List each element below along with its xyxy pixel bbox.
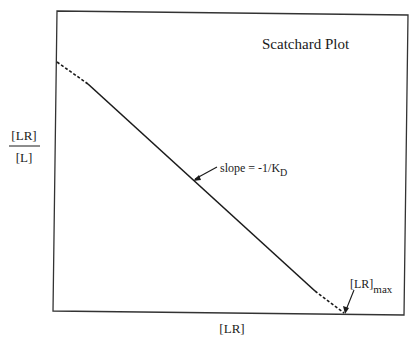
max-annotation: [LR]max xyxy=(350,277,393,295)
chart-title: Scatchard Plot xyxy=(262,36,350,52)
max-arrow-shaft xyxy=(346,290,354,310)
y-axis-label-denominator: [L] xyxy=(16,150,33,165)
dashed-extrapolation-right xyxy=(315,291,344,313)
dashed-extrapolation-left xyxy=(57,62,88,84)
scatchard-line xyxy=(88,84,315,291)
slope-annotation: slope = -1/KD xyxy=(220,161,287,178)
max-annotation-text: [LR] xyxy=(350,277,373,291)
slope-annotation-text: slope = -1/K xyxy=(220,161,280,175)
max-annotation-subscript: max xyxy=(373,283,392,295)
x-axis-label: [LR] xyxy=(219,321,244,336)
scatchard-plot: Scatchard Plot [LR] [L] [LR] slope = -1/… xyxy=(0,0,415,344)
slope-annotation-subscript: D xyxy=(280,167,287,178)
y-axis-label-numerator: [LR] xyxy=(11,128,36,143)
